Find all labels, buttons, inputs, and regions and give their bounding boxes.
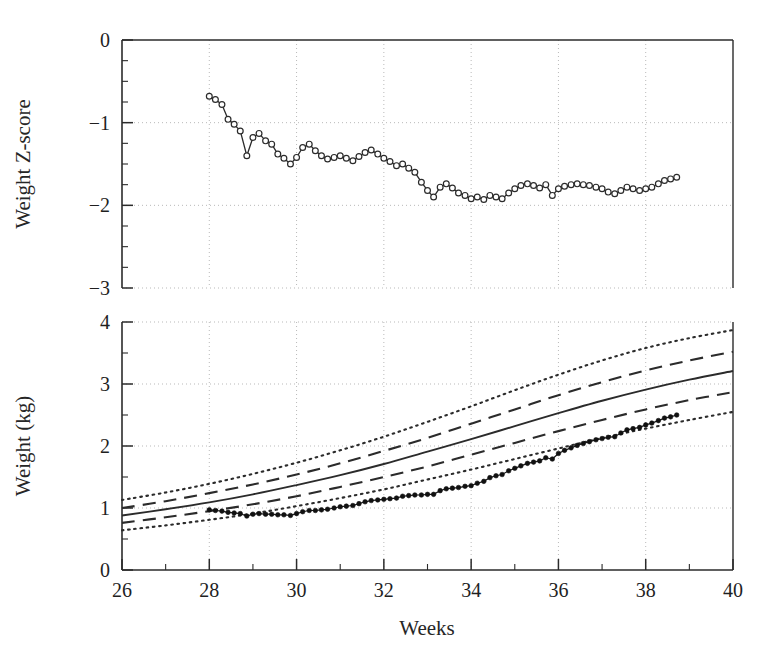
zscore-data-point [556,186,562,192]
zscore-data-point [481,197,487,203]
weight-data-point [494,473,499,478]
zscore-data-point [593,184,599,190]
zscore-data-point [574,181,580,187]
weight-data-point [643,423,648,428]
weight-data-point [257,511,262,516]
weight-data-point [625,428,630,433]
zscore-data-point [605,189,611,195]
weight-data-point [674,413,679,418]
zscore-data-point [387,159,393,165]
zscore-data-point [394,163,400,169]
weight-data-point [581,441,586,446]
weight-data-point [482,479,487,484]
zscore-data-point [244,153,250,159]
weight-data-point [475,481,480,486]
weight-data-point [668,415,673,420]
zscore-data-point [643,186,649,192]
zscore-data-point [306,141,312,147]
weight-data-point [450,486,455,491]
zscore-data-point [468,196,474,202]
weight-data-point [232,511,237,516]
weight-data-point [338,504,343,509]
zscore-data-point [350,158,356,164]
zscore-data-point [213,97,219,103]
weight-data-point [388,496,393,501]
weeks-xtick-label: 38 [636,579,656,601]
zscore-ytick-label: −2 [89,194,110,216]
weight-data-point [363,500,368,505]
zscore-data-point [231,121,237,127]
weight-data-point [531,460,536,465]
zscore-ytick-label: 0 [100,29,110,51]
zscore-data-point [437,184,443,190]
weight-data-point [375,498,380,503]
zscore-axis-title: Weight Z-score [11,99,35,229]
weight-data-point [382,497,387,502]
weight-data-point [294,511,299,516]
zscore-data-point [630,186,636,192]
weight-ytick-label: 4 [100,311,110,333]
zscore-data-point [443,181,449,187]
zscore-ytick-label: −3 [89,277,110,299]
zscore-data-point [537,185,543,191]
weeks-axis-title: Weeks [399,616,454,640]
weight-data-point [400,494,405,499]
zscore-data-point [288,161,294,167]
weight-data-point [650,421,655,426]
zscore-data-point [219,102,225,108]
zscore-data-point [406,165,412,171]
weight-data-point [543,455,548,460]
zscore-data-point [462,193,468,199]
zscore-data-point [375,151,381,157]
weight-data-point [425,492,430,497]
weight-data-point [394,496,399,501]
zscore-data-point [624,184,630,190]
weight-data-point [419,493,424,498]
weight-data-point [662,416,667,421]
weight-ytick-label: 3 [100,373,110,395]
zscore-data-point [269,141,275,147]
zscore-data-point [225,116,231,122]
weight-data-point [525,461,530,466]
zscore-data-point [263,138,269,144]
weight-data-point [369,498,374,503]
weight-data-point [631,426,636,431]
weight-data-point [500,472,505,477]
weight-data-point [488,475,493,480]
zscore-data-point [381,155,387,161]
weight-data-point [226,510,231,515]
zscore-data-point [319,153,325,159]
zscore-data-point [337,153,343,159]
weight-data-point [600,436,605,441]
zscore-data-point [674,174,680,180]
weight-data-point [463,484,468,489]
zscore-data-point [250,135,256,141]
weight-ytick-label: 2 [100,435,110,457]
zscore-data-point [562,183,568,189]
zscore-data-point [499,196,505,202]
zscore-data-point [456,190,462,196]
weight-data-point [413,493,418,498]
weeks-xtick-label: 28 [199,579,219,601]
zscore-data-point [237,128,243,134]
figure-canvas: 0−1−2−3 Weight Z-score 01234 26283032343… [0,0,777,662]
zscore-data-point [449,185,455,191]
weight-data-point [637,425,642,430]
weight-data-point [562,448,567,453]
zscore-data-point [275,151,281,157]
weight-data-point [269,512,274,517]
weight-data-point [431,492,436,497]
weight-data-point [594,438,599,443]
weeks-xtick-label: 32 [374,579,394,601]
weight-data-point [332,506,337,511]
weight-data-point [344,504,349,509]
zscore-data-point [506,190,512,196]
zscore-data-point [300,145,306,151]
zscore-data-point [493,194,499,200]
weight-data-point [506,469,511,474]
weight-data-point [276,513,281,518]
weeks-xtick-label: 40 [723,579,743,601]
weight-data-point [357,501,362,506]
weight-data-point [444,486,449,491]
weight-ytick-label: 1 [100,497,110,519]
